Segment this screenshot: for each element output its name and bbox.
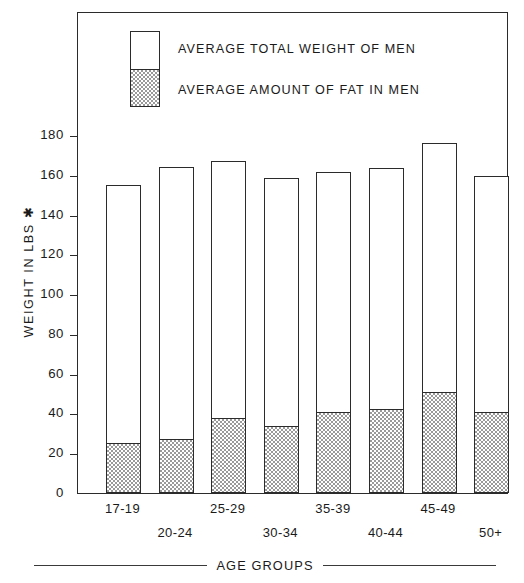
y-axis-tick-label: 40: [48, 405, 64, 420]
y-axis-tick: 60: [0, 375, 77, 376]
x-axis-label-20-24: 20-24: [157, 525, 192, 540]
y-axis-tick: 80: [0, 335, 77, 336]
y-axis-tick-label: 140: [40, 207, 64, 222]
chart-figure: WEIGHT IN LBS ✱ 020406080100120140160180…: [0, 0, 524, 583]
y-axis-tick-mark: [70, 255, 77, 256]
bar-30-34: [264, 178, 299, 493]
y-axis-tick: 120: [0, 255, 77, 256]
bar-fat-segment: [212, 418, 245, 492]
x-axis-rule-right: [323, 565, 496, 566]
bar-fat-segment: [475, 412, 508, 492]
legend-label-fat: AVERAGE AMOUNT OF FAT IN MEN: [178, 83, 420, 97]
bar-20-24: [159, 167, 194, 493]
legend-swatch-total: [131, 32, 159, 69]
bar-35-39: [316, 172, 351, 493]
bar-fat-segment: [423, 392, 456, 492]
x-axis-label-25-29: 25-29: [210, 501, 245, 516]
y-axis-tick: 160: [0, 176, 77, 177]
y-axis-tick-label: 100: [40, 286, 64, 301]
x-axis-title: AGE GROUPS: [216, 558, 313, 573]
y-axis-tick: 180: [0, 136, 77, 137]
bar-fat-segment: [160, 439, 193, 492]
x-axis-rule-left: [34, 565, 207, 566]
y-axis-tick-mark: [70, 454, 77, 455]
y-axis-tick: 20: [0, 454, 77, 455]
x-axis-label-17-19: 17-19: [105, 501, 140, 516]
y-axis-tick-label: 160: [40, 167, 64, 182]
x-axis-label-40-44: 40-44: [368, 525, 403, 540]
y-axis-tick-label: 0: [56, 485, 64, 500]
y-axis-tick-mark: [70, 375, 77, 376]
y-axis-tick-mark: [70, 295, 77, 296]
bar-45-49: [422, 143, 457, 493]
x-axis-label-45-49: 45-49: [420, 501, 455, 516]
bar-40-44: [369, 168, 404, 493]
legend-label-total-weight: AVERAGE TOTAL WEIGHT OF MEN: [178, 42, 416, 56]
x-axis-label-35-39: 35-39: [315, 501, 350, 516]
y-axis-tick-label: 180: [40, 127, 64, 142]
y-axis-tick-label: 120: [40, 246, 64, 261]
legend-swatch: [130, 31, 160, 107]
x-axis-label-50+: 50+: [479, 525, 502, 540]
bar-fat-segment: [265, 426, 298, 492]
bar-25-29: [211, 161, 246, 493]
y-axis-tick: 100: [0, 295, 77, 296]
bar-17-19: [106, 185, 141, 493]
x-axis-title-group: AGE GROUPS: [34, 556, 496, 574]
legend-swatch-fat: [131, 69, 159, 106]
y-axis-tick-label: 80: [48, 326, 64, 341]
y-axis-tick: 40: [0, 414, 77, 415]
y-axis-tick-mark: [70, 335, 77, 336]
y-axis-tick-label: 20: [48, 445, 64, 460]
y-axis-tick-label: 60: [48, 366, 64, 381]
y-axis-tick: 0: [0, 494, 77, 495]
bar-fat-segment: [107, 443, 140, 492]
y-axis-tick-mark: [70, 136, 77, 137]
y-axis-tick-mark: [70, 414, 77, 415]
y-axis-tick-mark: [70, 216, 77, 217]
chart-legend: AVERAGE TOTAL WEIGHT OF MEN AVERAGE AMOU…: [130, 31, 460, 107]
bar-fat-segment: [317, 412, 350, 492]
bar-50+: [474, 176, 509, 493]
y-axis-tick: 140: [0, 216, 77, 217]
bar-fat-segment: [370, 409, 403, 492]
y-axis-tick-mark: [70, 176, 77, 177]
x-axis-label-30-34: 30-34: [263, 525, 298, 540]
